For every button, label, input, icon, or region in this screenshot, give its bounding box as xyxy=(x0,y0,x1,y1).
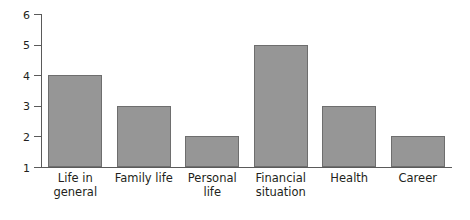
x-axis-label-line: life xyxy=(178,185,247,199)
x-axis-label-line: Career xyxy=(384,171,453,185)
x-axis-label-line: situation xyxy=(247,185,316,199)
bar xyxy=(254,45,308,167)
x-axis-line xyxy=(41,167,452,168)
x-axis-label-line: Personal xyxy=(178,171,247,185)
y-axis-tick-label: 2 xyxy=(23,131,30,142)
x-axis-label: Family life xyxy=(110,171,179,185)
y-axis-tick-label: 3 xyxy=(23,101,30,112)
y-axis-tick-label: 1 xyxy=(23,162,30,173)
x-axis-label: Career xyxy=(384,171,453,185)
bar xyxy=(322,106,376,167)
x-axis-label: Personallife xyxy=(178,171,247,199)
x-axis-label: Life ingeneral xyxy=(41,171,110,199)
y-axis-tick-label: 6 xyxy=(23,9,30,20)
plot-area xyxy=(41,14,452,167)
bar xyxy=(185,136,239,167)
x-axis-label: Health xyxy=(315,171,384,185)
x-axis-label-line: Life in xyxy=(41,171,110,185)
y-axis-tick: 4 xyxy=(34,75,41,76)
x-axis-category-labels: Life ingeneralFamily lifePersonallifeFin… xyxy=(41,171,452,215)
y-axis-tick: 6 xyxy=(34,14,41,15)
y-axis-tick-label: 4 xyxy=(23,70,30,81)
y-axis-tick: 1 xyxy=(34,167,41,168)
y-axis-tick: 3 xyxy=(34,106,41,107)
bar xyxy=(391,136,445,167)
x-axis-label-line: Financial xyxy=(247,171,316,185)
y-axis-tick: 5 xyxy=(34,45,41,46)
x-axis-label-line: general xyxy=(41,185,110,199)
x-axis-label-line: Family life xyxy=(110,171,179,185)
y-axis-tick: 2 xyxy=(34,136,41,137)
x-axis-label-line: Health xyxy=(315,171,384,185)
bar-chart: 123456 Life ingeneralFamily lifePersonal… xyxy=(0,0,470,220)
x-axis-label: Financialsituation xyxy=(247,171,316,199)
bar xyxy=(48,75,102,167)
y-axis-tick-label: 5 xyxy=(23,40,30,51)
bar xyxy=(117,106,171,167)
